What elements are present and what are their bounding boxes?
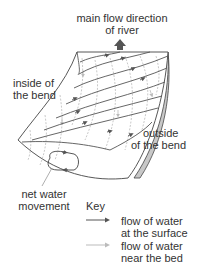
net-movement-label: net water movement: [14, 188, 74, 212]
main-flow-label-line2: of river: [72, 24, 172, 36]
key-item-bed: flow of water near the bed: [121, 240, 183, 264]
key-title: Key: [86, 200, 105, 212]
key-bed-arrow-icon: [86, 243, 110, 248]
main-flow-arrow-icon: [114, 39, 126, 50]
key-item-surface: flow of water at the surface: [121, 215, 188, 239]
outside-bend-label: outside of the bend: [131, 127, 186, 151]
inside-bend-label: inside of the bend: [13, 77, 56, 101]
main-flow-label-line1: main flow direction: [72, 12, 172, 24]
key-surface-arrow-icon: [86, 218, 110, 223]
main-flow-label: main flow direction of river: [72, 12, 172, 36]
net-movement-pointer: [42, 168, 52, 186]
